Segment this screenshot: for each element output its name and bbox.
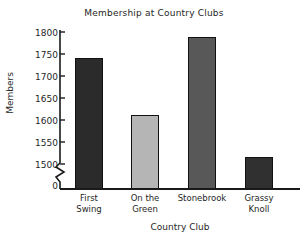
- x-tick-label-stonebrook: Stonebrook: [172, 193, 232, 204]
- cat-line-1: First: [80, 193, 98, 203]
- bar-grassy-knoll: [245, 157, 273, 189]
- y-tick-label-1600: 1600: [24, 116, 58, 126]
- x-axis-title: Country Club: [60, 222, 300, 232]
- cat-line-1: Grassy: [244, 193, 273, 203]
- y-tick-label-1550: 1550: [24, 138, 58, 148]
- y-axis-tick-labels: 1800 1750 1700 1650 1600 1550 1500 0: [20, 0, 58, 242]
- cat-line-2: Knoll: [249, 204, 270, 214]
- y-tick-label-origin: 0: [24, 181, 58, 191]
- y-tick-label-1750: 1750: [24, 50, 58, 60]
- y-tick-label-1800: 1800: [24, 28, 58, 38]
- bar-first-swing: [75, 58, 103, 189]
- bar-on-the-green: [131, 115, 159, 189]
- x-tick-label-first-swing: FirstSwing: [61, 193, 117, 215]
- bar-stonebrook: [188, 37, 216, 189]
- cat-line-1: On the: [131, 193, 160, 203]
- y-tick-label-1500: 1500: [24, 160, 58, 170]
- x-tick-label-on-the-green: On theGreen: [117, 193, 173, 215]
- y-axis-title: Members: [5, 61, 15, 125]
- y-tick-label-1700: 1700: [24, 72, 58, 82]
- bar-chart: Membership at Country Clubs Members Coun…: [0, 0, 308, 242]
- y-axis-ticks: [60, 32, 65, 164]
- cat-line-2: Green: [132, 204, 158, 214]
- y-tick-label-1650: 1650: [24, 94, 58, 104]
- cat-line-1: Stonebrook: [178, 193, 227, 203]
- cat-line-2: Swing: [76, 204, 102, 214]
- x-tick-label-grassy-knoll: GrassyKnoll: [231, 193, 287, 215]
